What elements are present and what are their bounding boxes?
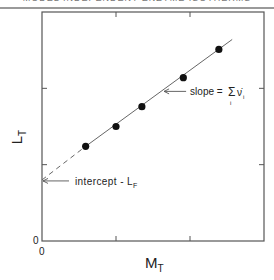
x-axis-label: MT [145, 254, 164, 274]
x-origin-label: 0 [39, 246, 45, 257]
data-point [112, 123, 119, 130]
data-point [138, 103, 145, 110]
sum-subscript: i [230, 100, 231, 106]
y-axis-label: LT [8, 130, 28, 144]
data-point [82, 143, 89, 150]
fit-lines [42, 39, 232, 179]
chart: slope = Σiν̇iintercept - LF MT LT 0 0 [0, 0, 274, 280]
plot-frame [42, 12, 264, 241]
data-point [180, 74, 187, 81]
annotations: slope = Σiν̇iintercept - LF [43, 85, 244, 189]
sum-symbol: Σ [228, 85, 235, 99]
nu-subscript: i [243, 94, 244, 100]
y-origin-label: 0 [33, 235, 39, 246]
axis-ticks [42, 12, 264, 241]
intercept-label: intercept - LF [75, 176, 138, 189]
slope-label: slope = [190, 86, 223, 97]
data-point [215, 46, 222, 53]
extrapolation-line [42, 146, 86, 180]
